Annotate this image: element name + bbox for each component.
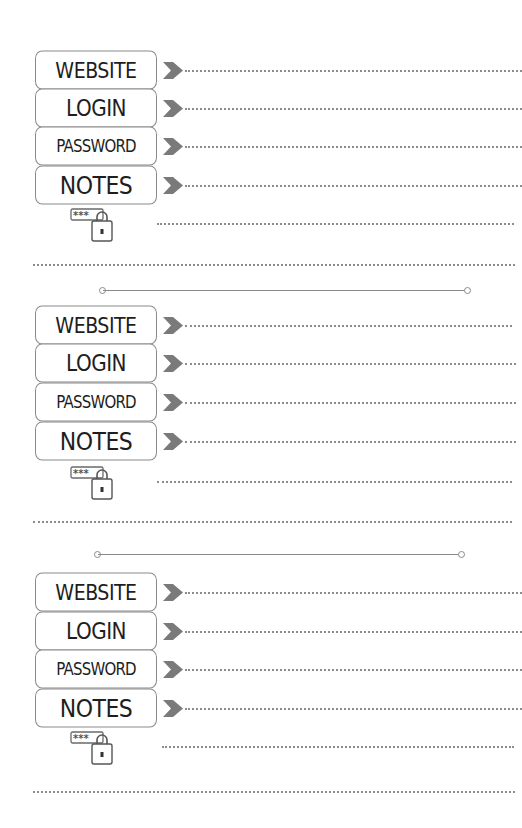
field-label-login: LOGIN bbox=[35, 343, 157, 382]
chevron-right-icon bbox=[163, 394, 183, 411]
chevron-right-icon bbox=[163, 355, 183, 372]
notes-entry-line[interactable] bbox=[185, 708, 522, 710]
section-divider bbox=[94, 551, 465, 559]
notes-continuation-row: *** bbox=[0, 731, 522, 767]
field-row-login[interactable]: LOGIN bbox=[35, 91, 522, 127]
website-entry-line[interactable] bbox=[185, 592, 522, 594]
login-entry-line[interactable] bbox=[185, 363, 516, 365]
field-label-website: WEBSITE bbox=[35, 572, 157, 611]
svg-text:***: *** bbox=[73, 210, 89, 221]
field-row-website[interactable]: WEBSITE bbox=[35, 308, 522, 344]
field-label-password: PASSWORD bbox=[35, 126, 157, 165]
field-row-website[interactable]: WEBSITE bbox=[35, 53, 522, 89]
field-label-notes: NOTES bbox=[35, 165, 157, 204]
field-label-login: LOGIN bbox=[35, 88, 157, 127]
password-entry-line[interactable] bbox=[185, 402, 516, 404]
entry-end-line[interactable] bbox=[33, 264, 515, 266]
field-row-notes[interactable]: NOTES bbox=[35, 691, 522, 727]
field-row-notes[interactable]: NOTES bbox=[35, 424, 522, 460]
chevron-right-icon bbox=[163, 584, 183, 601]
notes-continuation-row: *** bbox=[0, 208, 522, 244]
field-row-login[interactable]: LOGIN bbox=[35, 614, 522, 650]
field-label-password: PASSWORD bbox=[35, 649, 157, 688]
field-label-website: WEBSITE bbox=[35, 50, 157, 89]
field-label-login: LOGIN bbox=[35, 611, 157, 650]
chevron-right-icon bbox=[163, 100, 183, 117]
extra-notes-line[interactable] bbox=[157, 481, 512, 483]
chevron-right-icon bbox=[163, 623, 183, 640]
section-divider bbox=[99, 287, 471, 295]
chevron-right-icon bbox=[163, 661, 183, 678]
field-label-notes: NOTES bbox=[35, 688, 157, 727]
field-label-website: WEBSITE bbox=[35, 305, 157, 344]
chevron-right-icon bbox=[163, 700, 183, 717]
field-label-notes: NOTES bbox=[35, 421, 157, 460]
field-row-notes[interactable]: NOTES bbox=[35, 168, 522, 204]
notes-continuation-row: *** bbox=[0, 466, 522, 502]
password-lock-icon: *** bbox=[70, 731, 124, 767]
extra-notes-line[interactable] bbox=[157, 223, 514, 225]
entry-end-line[interactable] bbox=[33, 521, 512, 523]
password-entry-line[interactable] bbox=[185, 146, 522, 148]
website-entry-line[interactable] bbox=[185, 70, 522, 72]
website-entry-line[interactable] bbox=[185, 325, 512, 327]
login-entry-line[interactable] bbox=[185, 108, 522, 110]
field-row-password[interactable]: PASSWORD bbox=[35, 129, 522, 165]
svg-text:***: *** bbox=[73, 733, 89, 744]
notes-entry-line[interactable] bbox=[185, 441, 516, 443]
extra-notes-line[interactable] bbox=[162, 746, 514, 748]
field-row-website[interactable]: WEBSITE bbox=[35, 575, 522, 611]
chevron-right-icon bbox=[163, 433, 183, 450]
field-row-login[interactable]: LOGIN bbox=[35, 346, 522, 382]
password-entry-line[interactable] bbox=[185, 669, 522, 671]
field-label-password: PASSWORD bbox=[35, 382, 157, 421]
chevron-right-icon bbox=[163, 317, 183, 334]
chevron-right-icon bbox=[163, 138, 183, 155]
field-row-password[interactable]: PASSWORD bbox=[35, 652, 522, 688]
chevron-right-icon bbox=[163, 62, 183, 79]
chevron-right-icon bbox=[163, 177, 183, 194]
password-lock-icon: *** bbox=[70, 208, 124, 244]
password-log-page: WEBSITE LOGIN PASSWORD NOTES *** bbox=[0, 0, 522, 828]
field-row-password[interactable]: PASSWORD bbox=[35, 385, 522, 421]
notes-entry-line[interactable] bbox=[185, 185, 522, 187]
password-lock-icon: *** bbox=[70, 466, 124, 502]
svg-text:***: *** bbox=[73, 468, 89, 479]
login-entry-line[interactable] bbox=[185, 631, 522, 633]
entry-end-line[interactable] bbox=[33, 791, 515, 793]
